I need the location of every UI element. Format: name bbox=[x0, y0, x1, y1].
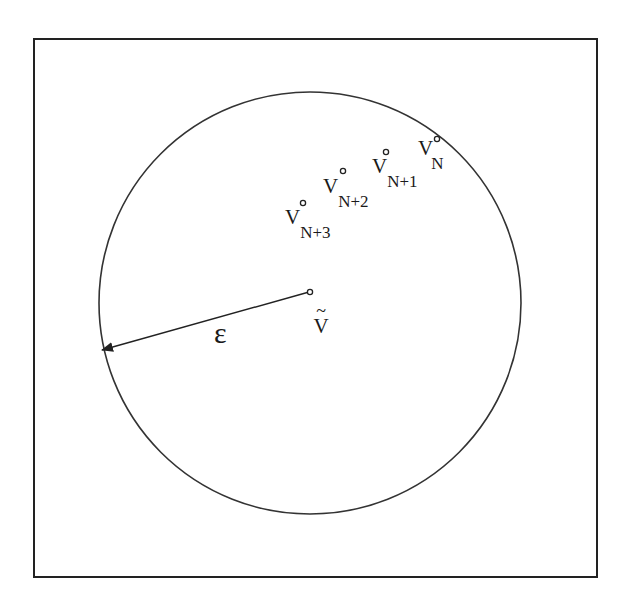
label-vN-sub: N bbox=[431, 154, 443, 173]
point-vN3-marker bbox=[300, 200, 305, 205]
label-vN2-sub: N+2 bbox=[338, 192, 368, 211]
label-vN3-main: V bbox=[285, 205, 300, 229]
label-vN: VN bbox=[418, 138, 445, 159]
label-vN1: VN+1 bbox=[372, 156, 418, 177]
diagram-svg bbox=[0, 0, 629, 609]
diagram-canvas: VN VN+1 VN+2 VN+3 ~ V ε bbox=[0, 0, 629, 609]
v-tilde-main: V bbox=[313, 316, 329, 336]
label-vN1-main: V bbox=[372, 154, 387, 178]
label-vN2-main: V bbox=[323, 174, 338, 198]
label-vN1-sub: N+1 bbox=[387, 172, 417, 191]
label-vN2: VN+2 bbox=[323, 176, 369, 197]
center-point-marker bbox=[307, 289, 312, 294]
label-vN3-sub: N+3 bbox=[300, 223, 330, 242]
label-epsilon: ε bbox=[214, 318, 227, 348]
radius-arrow bbox=[102, 292, 309, 350]
point-vN2-marker bbox=[340, 168, 345, 173]
label-vN3: VN+3 bbox=[285, 207, 331, 228]
label-v-tilde: ~ V bbox=[313, 306, 329, 336]
epsilon-circle bbox=[99, 92, 521, 514]
